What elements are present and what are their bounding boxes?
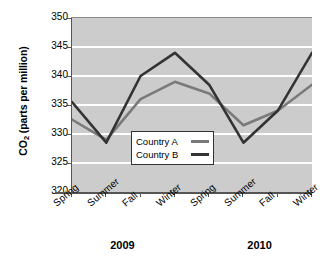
y-axis-tick-label: 330 — [38, 128, 68, 138]
y-axis-tick-mark — [66, 134, 71, 135]
y-axis-title: CO2 (parts per million) — [17, 16, 29, 186]
legend: Country A Country B — [131, 131, 214, 165]
y-axis-title-prefix: CO — [17, 140, 29, 156]
legend-item-country-a[interactable]: Country A — [136, 135, 209, 148]
y-axis-tick-mark — [66, 47, 71, 48]
y-axis-tick-label: 350 — [38, 12, 68, 22]
line-chart: CO2 (parts per million) 3503453403353303… — [0, 0, 323, 259]
y-axis-title-subscript: 2 — [22, 136, 31, 140]
y-axis-tick-label: 340 — [38, 70, 68, 80]
plot-svg — [72, 18, 312, 192]
y-axis-tick-mark — [66, 18, 71, 19]
y-axis-tick-labels: 350345340335330325320 — [36, 0, 68, 259]
y-axis-title-suffix: (parts per million) — [17, 46, 29, 136]
legend-item-country-b[interactable]: Country B — [136, 148, 209, 161]
legend-label-country-b: Country B — [136, 149, 178, 160]
y-axis-tick-label: 345 — [38, 41, 68, 51]
legend-label-country-a: Country A — [136, 136, 178, 147]
series-line-country-b — [72, 53, 312, 143]
y-axis-tick-mark — [66, 105, 71, 106]
legend-swatch-country-a — [191, 140, 209, 143]
x-axis-tick-mark — [140, 192, 141, 197]
plot-area — [71, 18, 312, 192]
y-axis-tick-mark — [66, 76, 71, 77]
x-axis-group-label: 2009 — [92, 239, 152, 251]
y-axis-tick-mark — [66, 163, 71, 164]
y-axis-tick-label: 335 — [38, 99, 68, 109]
legend-swatch-country-b — [191, 153, 209, 156]
x-axis-group-label: 2010 — [230, 239, 290, 251]
x-axis-tick-mark — [277, 192, 278, 197]
y-axis-tick-label: 325 — [38, 157, 68, 167]
